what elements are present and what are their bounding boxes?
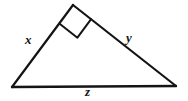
side-label-y: y xyxy=(126,31,132,44)
side-label-x: x xyxy=(25,33,32,46)
side-label-z: z xyxy=(85,85,90,98)
triangle-side-x xyxy=(12,5,73,87)
triangle-side-y xyxy=(73,5,176,86)
triangle-drawing xyxy=(0,0,188,101)
right-triangle-figure: x y z xyxy=(0,0,188,101)
right-angle-square-icon xyxy=(59,19,91,38)
triangle-side-z xyxy=(12,86,176,87)
